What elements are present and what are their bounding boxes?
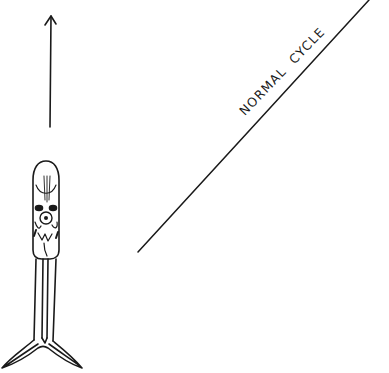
up-arrow-icon xyxy=(45,16,56,127)
diagram-canvas xyxy=(0,0,389,373)
organism-figure xyxy=(2,161,82,368)
tail-fork xyxy=(2,338,82,368)
cycle-line xyxy=(138,0,369,252)
tail-stalk xyxy=(34,259,56,341)
